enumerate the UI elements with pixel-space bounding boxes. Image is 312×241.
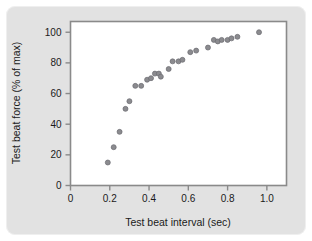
data-point <box>117 129 122 134</box>
data-point <box>205 45 210 50</box>
y-tick-label: 0 <box>56 180 62 191</box>
data-point <box>180 57 185 62</box>
chart-canvas: 020406080100 00.20.40.60.81.0 Test beat … <box>0 0 312 241</box>
x-tick-label: 0.2 <box>103 193 117 204</box>
data-point <box>139 83 144 88</box>
data-point <box>229 36 234 41</box>
data-point <box>123 106 128 111</box>
data-point <box>257 30 262 35</box>
x-tick-label: 0.8 <box>221 193 235 204</box>
y-tick-label: 40 <box>50 119 62 130</box>
plot-frame <box>71 22 287 186</box>
data-point <box>170 59 175 64</box>
x-tick-label: 1.0 <box>260 193 274 204</box>
data-point <box>194 48 199 53</box>
data-point <box>166 67 171 72</box>
data-point <box>235 34 240 39</box>
x-tick-label: 0 <box>68 193 74 204</box>
scatter-chart: 020406080100 00.20.40.60.81.0 Test beat … <box>0 0 312 241</box>
x-axis-ticks: 00.20.40.60.81.0 <box>68 186 275 204</box>
x-axis-title: Test beat interval (sec) <box>125 216 231 228</box>
data-point <box>158 74 163 79</box>
data-point <box>111 145 116 150</box>
data-point <box>188 50 193 55</box>
y-tick-label: 20 <box>50 149 62 160</box>
data-point <box>127 99 132 104</box>
y-axis-title: Test beat force (% of max) <box>10 42 22 165</box>
y-tick-label: 60 <box>50 88 62 99</box>
y-axis-ticks: 020406080100 <box>45 27 71 191</box>
data-point <box>219 37 224 42</box>
data-point <box>133 83 138 88</box>
data-point <box>149 76 154 81</box>
x-tick-label: 0.4 <box>142 193 156 204</box>
data-point <box>105 160 110 165</box>
y-tick-label: 80 <box>50 57 62 68</box>
y-tick-label: 100 <box>45 27 62 38</box>
x-tick-label: 0.6 <box>181 193 195 204</box>
